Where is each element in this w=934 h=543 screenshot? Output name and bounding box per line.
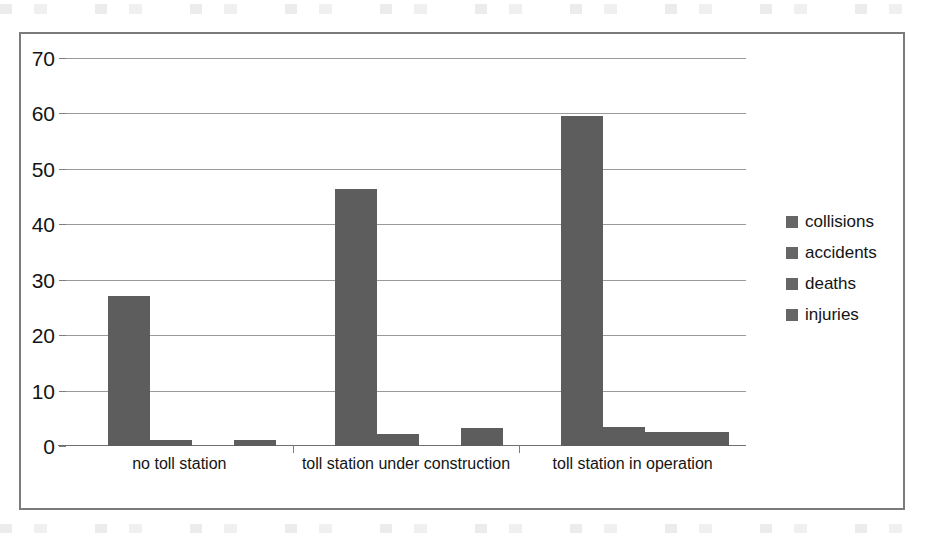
bar-group	[66, 58, 293, 446]
scan-artifact-bottom	[0, 524, 934, 533]
category-separator	[519, 445, 520, 453]
category-label: toll station under construction	[293, 455, 520, 473]
bar-accidents	[150, 440, 192, 446]
bar-collisions	[561, 116, 603, 446]
y-tick-mark	[59, 169, 66, 170]
legend-swatch-icon	[786, 247, 798, 259]
bar-collisions	[108, 296, 150, 446]
y-tick-mark	[59, 391, 66, 392]
y-tick-label: 60	[32, 103, 55, 124]
legend-label: deaths	[805, 275, 856, 292]
scan-artifact-top	[0, 4, 934, 14]
y-tick-label: 10	[32, 380, 55, 401]
bar-injuries	[234, 440, 276, 446]
bar-accidents	[377, 434, 419, 446]
legend-swatch-icon	[786, 216, 798, 228]
bar-group	[519, 58, 746, 446]
bar-accidents	[603, 427, 645, 446]
y-tick-mark	[59, 113, 66, 114]
y-tick-label: 40	[32, 214, 55, 235]
category-label: toll station in operation	[519, 455, 746, 473]
bar-deaths	[645, 432, 687, 446]
y-tick-label: 70	[32, 48, 55, 69]
category-separator	[293, 445, 294, 453]
y-tick-mark	[59, 58, 66, 59]
bar-injuries	[461, 428, 503, 446]
y-tick-mark	[59, 335, 66, 336]
legend-item-injuries: injuries	[786, 299, 877, 330]
legend-swatch-icon	[786, 278, 798, 290]
legend-label: accidents	[805, 244, 877, 261]
legend-item-accidents: accidents	[786, 237, 877, 268]
legend-label: injuries	[805, 306, 859, 323]
legend-swatch-icon	[786, 309, 798, 321]
chart-legend: collisionsaccidentsdeathsinjuries	[786, 206, 877, 330]
category-label: no toll station	[66, 455, 293, 473]
plot-area: 706050403020100	[66, 58, 746, 446]
bar-collisions	[335, 189, 377, 446]
legend-item-deaths: deaths	[786, 268, 877, 299]
legend-label: collisions	[805, 213, 874, 230]
legend-item-collisions: collisions	[786, 206, 877, 237]
bar-group	[293, 58, 520, 446]
y-tick-mark	[59, 446, 66, 447]
bar-injuries	[687, 432, 729, 446]
y-tick-label: 50	[32, 158, 55, 179]
y-tick-mark	[59, 280, 66, 281]
y-tick-label: 20	[32, 325, 55, 346]
y-tick-mark	[59, 224, 66, 225]
y-tick-label: 30	[32, 269, 55, 290]
y-tick-label: 0	[43, 436, 55, 457]
